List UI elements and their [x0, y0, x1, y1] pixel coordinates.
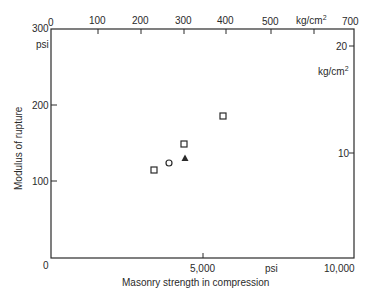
plot-frame [51, 29, 354, 258]
left-axis-unit: psi [36, 39, 49, 50]
bottom-tick-label-10000: 10,000 [324, 263, 355, 274]
data-point-circle [166, 160, 172, 166]
top-tick-label-400: 400 [217, 15, 234, 26]
top-tick-label-100: 100 [89, 15, 106, 26]
data-point-square [151, 167, 157, 173]
right-axis-unit: kg/cm2 [318, 65, 349, 77]
bottom-axis-unit: psi [265, 263, 278, 274]
top-tick-label-700: 700 [342, 16, 359, 27]
origin-label: 0 [43, 260, 49, 271]
right-tick-label-10: 10 [338, 148, 350, 159]
left-tick-label-300: 300 [32, 23, 49, 34]
y-axis-title: Modulus of rupture [13, 106, 24, 190]
left-tick-label-100: 100 [32, 176, 49, 187]
data-point-square [181, 141, 187, 147]
top-axis-unit: kg/cm2 [296, 14, 327, 26]
series-open-squares [151, 113, 226, 173]
top-axis-ticks [98, 29, 314, 34]
left-tick-label-200: 200 [32, 100, 49, 111]
chart-canvas: 0 100 200 300 400 500 kg/cm2 700 300 psi… [0, 0, 373, 298]
data-point-square [220, 113, 226, 119]
x-axis-title: Masonry strength in compression [122, 277, 269, 288]
top-tick-label-0: 0 [48, 17, 54, 28]
top-tick-label-300: 300 [175, 15, 192, 26]
right-axis-ticks [349, 46, 354, 153]
left-axis-ticks [51, 105, 57, 181]
bottom-tick-label-5000: 5,000 [190, 263, 215, 274]
right-tick-label-20: 20 [336, 41, 348, 52]
top-tick-label-500: 500 [262, 16, 279, 27]
data-point-triangle [182, 155, 189, 162]
top-tick-label-200: 200 [132, 15, 149, 26]
